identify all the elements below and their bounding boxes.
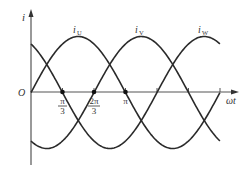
label-iU: i U — [73, 24, 82, 36]
label-iV: i V — [135, 24, 144, 36]
label-iW: i W — [198, 24, 209, 36]
svg-text:U: U — [77, 29, 82, 36]
svg-text:i: i — [135, 24, 138, 35]
tick-label-2pi-3: 2π 3 — [88, 96, 100, 116]
point-2pi-3 — [92, 90, 97, 95]
diagram-canvas: i ωt O π 3 2π 3 π i U i V i W — [0, 0, 252, 169]
svg-text:V: V — [139, 29, 144, 36]
svg-text:π: π — [60, 96, 65, 106]
tick-label-pi: π — [123, 96, 128, 106]
point-pi-3 — [60, 90, 65, 95]
svg-text:3: 3 — [92, 106, 97, 116]
origin-label: O — [18, 87, 25, 98]
point-pi — [123, 90, 128, 95]
svg-text:W: W — [202, 29, 209, 36]
svg-text:3: 3 — [60, 106, 65, 116]
y-axis-arrow-icon — [29, 9, 34, 17]
svg-text:2π: 2π — [89, 96, 99, 106]
three-phase-current-diagram: i ωt O π 3 2π 3 π i U i V i W — [0, 0, 252, 169]
svg-text:i: i — [198, 24, 201, 35]
x-axis-arrow-icon — [231, 90, 239, 95]
x-axis-label: ωt — [226, 95, 236, 106]
y-axis-label: i — [22, 11, 25, 23]
svg-text:i: i — [73, 24, 76, 35]
